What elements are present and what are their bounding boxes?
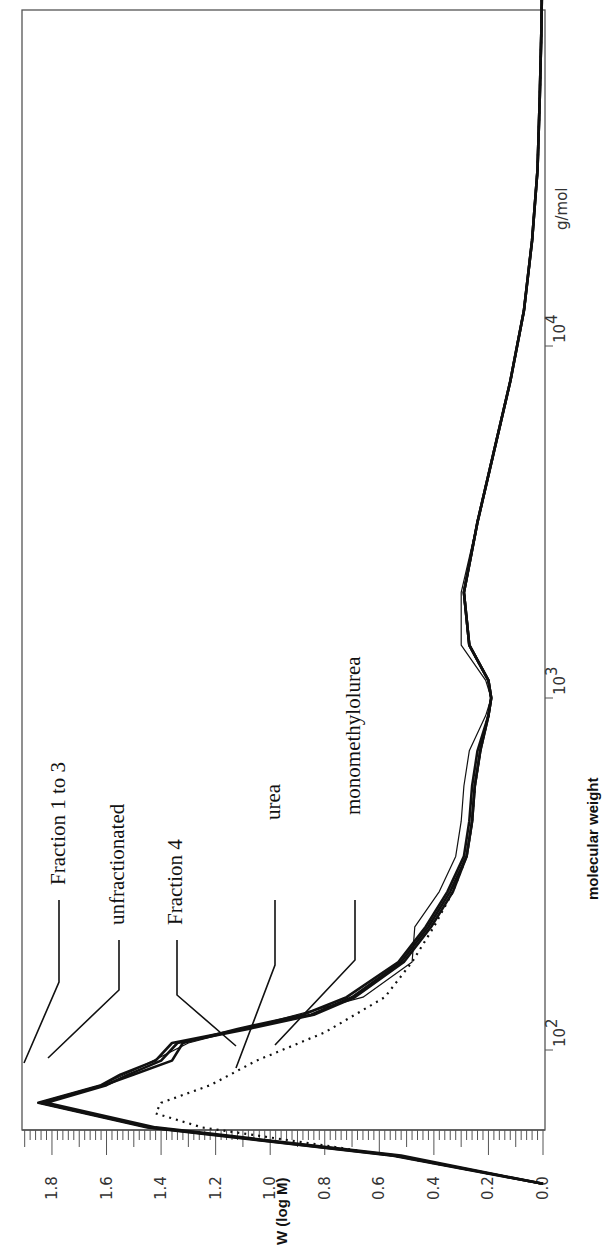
w-tick-label: 0.2 [479,1176,497,1200]
curve-urea [156,0,543,1184]
callout-line-urea [236,900,275,1068]
w-tick-label: 1.4 [152,1176,170,1200]
w-tick-label: 1.2 [207,1176,225,1200]
w-tick-label: 0.4 [425,1176,443,1200]
curves [38,0,543,1184]
label-fraction-4: Fraction 4 [163,839,187,925]
svg-text:4: 4 [543,314,561,324]
curve-unfractionated [47,0,544,1184]
mw-axis-ticks: 102103104 [543,314,569,1050]
callout-line-mmu [275,900,355,1045]
w-tick-label: 0.6 [370,1176,388,1200]
curve-fraction-4 [41,0,543,1184]
label-monomethylolurea: monomethylolurea [341,656,365,815]
svg-text:2: 2 [543,1018,561,1028]
curve-monomethylolurea [38,0,543,1184]
w-tick-label: 1.8 [43,1176,61,1200]
w-tick-label: 0.0 [534,1176,552,1200]
x-axis-title: molecular weight [584,777,601,900]
label-urea: urea [261,783,285,820]
svg-text:3: 3 [543,666,561,676]
w-tick-label: 1.6 [98,1176,116,1200]
mw-tick-label: 10 [551,324,569,343]
w-axis-tick-labels: 1.81.61.41.21.00.80.60.40.20.0 [43,1176,552,1200]
mw-tick-label: 10 [551,1028,569,1047]
x-axis-unit: g/mol [553,187,571,230]
gpc-chart: 1.81.61.41.21.00.80.60.40.20.0 102103104… [0,0,613,1254]
label-fraction-1-to-3: Fraction 1 to 3 [46,762,70,885]
callout-line-fraction4 [177,940,236,1046]
curve-fraction-1-to-3 [38,0,543,1184]
callout-line-fraction13 [24,900,59,1063]
y-axis-title: W (log M) [273,1178,290,1245]
mw-tick-label: 10 [551,676,569,695]
w-tick-label: 0.8 [316,1176,334,1200]
label-unfractionated: unfractionated [105,803,129,925]
